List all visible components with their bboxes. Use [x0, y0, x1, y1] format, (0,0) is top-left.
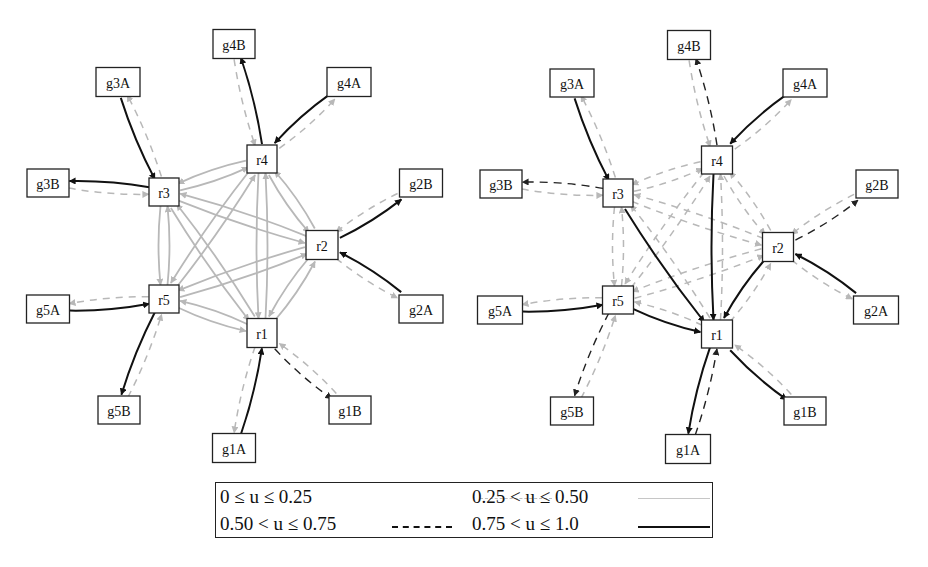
node-r2: r2 [306, 231, 338, 260]
edge-r3-to-r1 [625, 209, 704, 322]
edge-r5-to-r4 [177, 175, 255, 287]
node-label-g5A: g5A [488, 304, 513, 319]
legend-label-u-075-10: 0.75 < u ≤ 1.0 [472, 513, 579, 535]
legend-label-u-050-075: 0.50 < u ≤ 0.75 [220, 513, 336, 535]
node-label-g1A: g1A [222, 442, 247, 457]
node-g3A: g3A [550, 69, 594, 97]
edge-r1-to-r2 [730, 264, 771, 323]
node-label-r2: r2 [772, 241, 784, 256]
edge-r2-to-g2B [340, 199, 402, 238]
edge-g3A-to-r3 [575, 98, 609, 180]
node-g5B: g5B [98, 396, 140, 424]
node-r2: r2 [763, 233, 794, 262]
node-r1: r1 [247, 319, 277, 348]
edge-r2-to-r5 [178, 247, 305, 290]
node-r5: r5 [149, 285, 179, 313]
node-label-g2A: g2A [409, 303, 434, 318]
node-label-g5B: g5B [560, 405, 583, 420]
node-g1B: g1B [784, 397, 826, 425]
edge-g4A-to-r4 [730, 94, 787, 143]
edge-r4-to-r1 [712, 174, 714, 320]
edge-r2-to-r1 [724, 260, 765, 319]
node-g4B: g4B [668, 31, 711, 60]
node-label-g1A: g1A [676, 443, 701, 458]
node-g4B: g4B [213, 30, 255, 59]
node-label-r3: r3 [158, 186, 170, 201]
node-label-g4B: g4B [677, 39, 700, 54]
edge-g1B-to-r1 [735, 345, 792, 395]
legend-label-u-0-025: 0 ≤ u ≤ 0.25 [220, 486, 312, 508]
node-label-g5A: g5A [36, 303, 61, 318]
node-g5A: g5A [478, 296, 523, 324]
legend-swatch-light-solid [638, 498, 710, 499]
edge-g2A-to-r2 [340, 252, 401, 292]
edge-g5A-to-r5 [70, 304, 150, 311]
edge-r1-to-g1B [275, 349, 332, 399]
node-r4: r4 [247, 145, 277, 173]
node-g3B: g3B [27, 169, 69, 197]
node-label-g4A: g4A [337, 76, 362, 91]
node-label-g3A: g3A [560, 77, 585, 92]
node-label-r5: r5 [158, 293, 170, 308]
node-g2B: g2B [400, 169, 443, 197]
nodes-right: g4Bg3Ag4Ar4g3Br3g2Br2r5g5Ag2Ar1g5Bg1Bg1A [478, 31, 899, 464]
node-r3: r3 [149, 178, 179, 206]
legend-swatch-dark-dashed [392, 526, 452, 528]
edge-g4B-to-r4 [689, 60, 710, 147]
edge-r1-to-r2 [275, 262, 315, 321]
node-label-r1: r1 [256, 327, 268, 342]
legend-swatch-dark-solid [638, 526, 710, 528]
edge-g1B-to-r1 [279, 344, 336, 394]
edge-g5A-to-r5 [523, 305, 603, 312]
node-g4A: g4A [783, 69, 827, 97]
edge-r4-to-g4A [735, 100, 792, 150]
edge-r3-to-g3A [127, 95, 161, 177]
legend: 0 ≤ u ≤ 0.25 0.25 < u ≤ 0.50 0.50 < u ≤ … [215, 482, 713, 538]
edge-r3-to-g3B [522, 182, 603, 188]
edge-r5-to-r2 [180, 254, 307, 297]
node-label-g1B: g1B [793, 405, 816, 420]
node-label-r1: r1 [711, 328, 723, 343]
node-r1: r1 [702, 320, 733, 348]
node-label-g2A: g2A [864, 304, 889, 319]
node-label-r3: r3 [612, 187, 624, 202]
node-g4A: g4A [327, 68, 371, 97]
edge-r4-to-g4B [696, 59, 717, 146]
edge-r5-to-g5B [575, 313, 609, 396]
edges-left [69, 58, 402, 435]
edge-g2B-to-r2 [792, 194, 855, 234]
edge-r2-to-r5 [632, 249, 761, 292]
nodes-left: g4Bg3Ag4Ar4g3Br3g2Br2r5g5Ag2Ar1g5Bg1Bg1A [27, 30, 444, 463]
edge-r5-to-g5A [69, 297, 149, 304]
edge-r1-to-r3 [177, 204, 255, 317]
edge-r2-to-g2B [795, 200, 858, 240]
edge-r3-to-g3B [69, 181, 149, 187]
node-r3: r3 [603, 179, 633, 207]
node-g2A: g2A [854, 296, 899, 324]
node-label-r5: r5 [612, 294, 624, 309]
edge-r1-to-g1A [688, 347, 710, 434]
edge-r3-to-g3A [581, 96, 615, 178]
node-r4: r4 [702, 146, 733, 174]
node-g5B: g5B [551, 397, 594, 425]
edge-r1-to-g1B [730, 350, 787, 399]
edge-r5-to-r2 [635, 256, 764, 299]
node-label-r2: r2 [316, 239, 328, 254]
node-g2B: g2B [856, 170, 898, 198]
node-r5: r5 [603, 286, 634, 314]
edge-r5-to-g5B [121, 312, 155, 395]
node-g2A: g2A [399, 295, 443, 323]
edge-g3B-to-r3 [69, 188, 149, 194]
node-label-g4A: g4A [793, 77, 818, 92]
edge-g2A-to-r2 [795, 254, 856, 293]
node-label-r4: r4 [256, 153, 268, 168]
node-g1B: g1B [329, 396, 371, 424]
legend-label-u-025-050: 0.25 < u ≤ 0.50 [472, 486, 588, 508]
edge-g2B-to-r2 [336, 194, 398, 233]
edge-r1-to-r3 [631, 205, 710, 318]
node-label-g2B: g2B [865, 178, 888, 193]
node-label-g2B: g2B [409, 177, 432, 192]
node-label-r4: r4 [711, 154, 723, 169]
edges-right [522, 59, 858, 436]
edge-r4-to-r2 [724, 176, 765, 235]
